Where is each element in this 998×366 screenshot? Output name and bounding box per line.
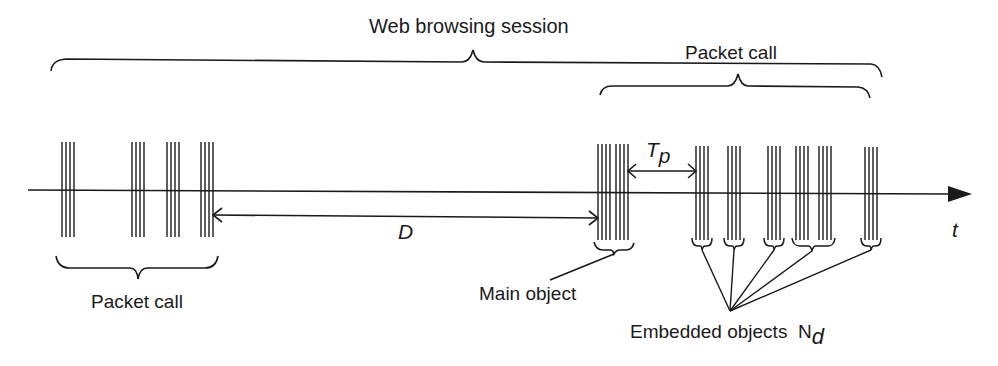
embedded-objects-symbol: N (798, 321, 812, 342)
parsing-time-symbol: T (646, 138, 659, 161)
main-object-label: Main object (479, 283, 576, 305)
embedded-objects-subscript: d (812, 324, 824, 349)
session-label: Web browsing session (369, 15, 569, 38)
reading-time-label: D (398, 220, 413, 244)
main-object-pointer (550, 254, 614, 280)
packet-group (201, 142, 213, 237)
main-object-brace (594, 242, 634, 254)
time-axis-label: t (952, 218, 958, 242)
embedded-objects-text: Embedded objects (630, 321, 787, 342)
packet-call-brace-top (600, 74, 870, 98)
packet-group (132, 142, 144, 237)
embedded-objects-label: Embedded objects Nd (630, 318, 824, 344)
embedded-object-pointers (702, 250, 871, 311)
time-axis-arrowhead (948, 186, 972, 202)
packet-call-brace-bottom (56, 256, 218, 279)
parsing-time-subscript: p (659, 144, 671, 167)
packet-call-label-top: Packet call (685, 42, 777, 64)
packet-group (167, 142, 179, 237)
embedded-object-braces (692, 238, 881, 251)
parsing-time-label: Tp (646, 138, 671, 162)
packet-call-label-bottom: Packet call (91, 291, 183, 313)
